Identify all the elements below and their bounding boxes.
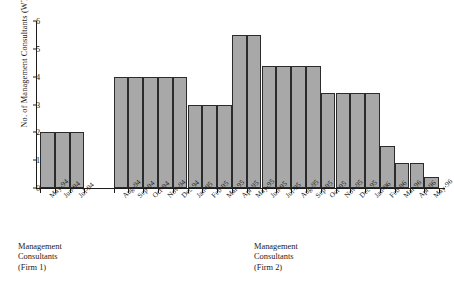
y-tick-label: 4: [36, 72, 40, 81]
group-caption-line: Consultants: [18, 252, 62, 262]
bar: [276, 66, 291, 188]
bar: [321, 93, 336, 188]
bar: [128, 77, 143, 188]
bar: [40, 132, 55, 188]
y-tick-label: 6: [36, 17, 40, 26]
y-tick-label: 2: [36, 128, 40, 137]
y-tick-mark: [33, 104, 37, 105]
y-tick-label: 5: [36, 44, 40, 53]
y-tick-label: 3: [36, 100, 40, 109]
y-tick-mark: [33, 21, 37, 22]
group-caption-line: Consultants: [254, 252, 298, 262]
bar: [247, 35, 262, 188]
bar: [158, 77, 173, 188]
y-tick-mark: [33, 188, 37, 189]
bar: [114, 77, 129, 188]
bar: [336, 93, 351, 188]
bar: [262, 66, 277, 188]
group-caption: ManagementConsultants(Firm 1): [18, 242, 62, 273]
group-caption-line: Management: [18, 242, 62, 252]
x-tick-mark: [40, 189, 41, 193]
y-axis-title: No. of Management Consultants (WTEs): [20, 0, 29, 147]
group-caption: ManagementConsultants(Firm 2): [254, 242, 298, 273]
y-tick-mark: [33, 48, 37, 49]
group-caption-line: (Firm 2): [254, 263, 298, 273]
bar: [350, 93, 365, 188]
y-tick-label: 0: [36, 184, 40, 193]
x-tick-mark: [114, 189, 115, 193]
bar: [291, 66, 306, 188]
y-tick-mark: [33, 76, 37, 77]
bar: [365, 93, 380, 188]
bar: [217, 105, 232, 189]
y-tick-mark: [33, 160, 37, 161]
bar: [188, 105, 203, 189]
bar: [173, 77, 188, 188]
y-tick-mark: [33, 132, 37, 133]
bar: [143, 77, 158, 188]
bar: [232, 35, 247, 188]
group-caption-line: Management: [254, 242, 298, 252]
bar: [202, 105, 217, 189]
bar: [306, 66, 321, 188]
group-caption-line: (Firm 1): [18, 263, 62, 273]
y-tick-label: 1: [36, 156, 40, 165]
